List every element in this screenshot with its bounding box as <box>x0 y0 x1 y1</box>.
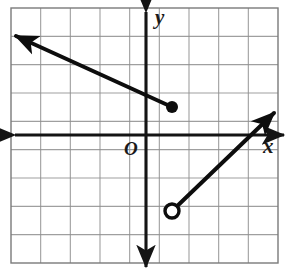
graph-canvas: y x O <box>0 0 292 280</box>
closed-endpoint-dot <box>166 101 178 113</box>
x-axis-label: x <box>262 134 274 158</box>
open-endpoint-circle <box>165 204 179 218</box>
coordinate-plane-figure: y x O <box>0 0 292 280</box>
origin-label: O <box>124 138 138 159</box>
